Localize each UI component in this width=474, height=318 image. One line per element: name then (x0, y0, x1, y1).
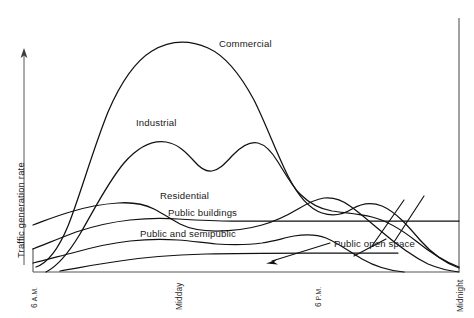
leader-line-open-space-arrow (272, 243, 330, 261)
x-tick-midday: Midday (175, 282, 184, 310)
traffic-generation-chart: Commercial Industrial Residential Public… (0, 0, 474, 318)
x-tick-6am-number: 6 (30, 303, 39, 308)
curve-label-public-open-space: Public open space (334, 238, 415, 249)
x-tick-6pm: 6P.M. (314, 287, 323, 307)
curve-label-residential: Residential (160, 190, 209, 201)
x-tick-6pm-number: 6 (314, 302, 323, 307)
x-tick-6pm-unit: P.M. (315, 287, 322, 301)
curve-commercial (36, 42, 459, 268)
curve-label-public-buildings: Public buildings (168, 207, 237, 218)
x-tick-midnight: Midnight (456, 279, 465, 312)
curve-label-industrial: Industrial (136, 117, 176, 128)
x-tick-6am-unit: A.M. (31, 287, 38, 301)
x-tick-6am: 6A.M. (30, 287, 39, 308)
curve-label-commercial: Commercial (219, 38, 272, 49)
y-axis-title: Traffic generation rate (15, 162, 26, 258)
curve-residential (33, 198, 459, 272)
curve-label-public-and-semipublic: Public and semipublic (140, 228, 236, 239)
curve-public-open-space (60, 253, 398, 271)
